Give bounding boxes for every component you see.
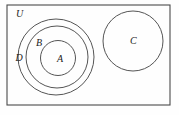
set-circle-d [18,19,94,95]
universe-label: U [16,8,24,19]
set-label-b: B [36,37,42,48]
venn-diagram-figure: U D B A C [0,0,179,115]
universe-rectangle [7,5,170,105]
set-label-c: C [130,35,137,46]
venn-diagram-canvas: U D B A C [0,0,179,115]
set-label-a: A [56,53,64,64]
set-label-d: D [15,52,24,63]
